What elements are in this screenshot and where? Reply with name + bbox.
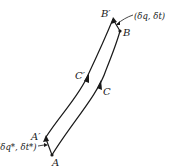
variation-diagram: B′ B (δq, δt) C′ C A′ (δq*, δt*) A: [0, 0, 172, 168]
label-b-prime: B′: [100, 8, 111, 19]
variation-arrow-start-head-icon: [43, 135, 49, 142]
label-c: C: [103, 86, 111, 97]
leader-start: [38, 145, 44, 146]
label-c-prime: C′: [75, 70, 86, 81]
label-a: A: [51, 157, 59, 168]
label-end-variation: (δq, δt): [134, 11, 165, 21]
variation-arrow-start: [46, 139, 52, 155]
label-b: B: [122, 27, 130, 38]
label-start-variation: (δq*, δt*): [0, 142, 37, 152]
point-b-dot: [118, 29, 121, 32]
label-a-prime: A′: [30, 131, 41, 142]
